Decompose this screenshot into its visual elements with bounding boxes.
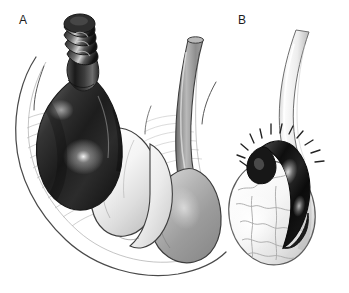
twisted-spermatic-cord: [64, 14, 99, 91]
illustration-canvas: A: [0, 0, 349, 293]
panel-b-label: B: [238, 13, 246, 27]
panel-a-label: A: [19, 13, 27, 27]
medical-figure: A: [0, 0, 349, 293]
